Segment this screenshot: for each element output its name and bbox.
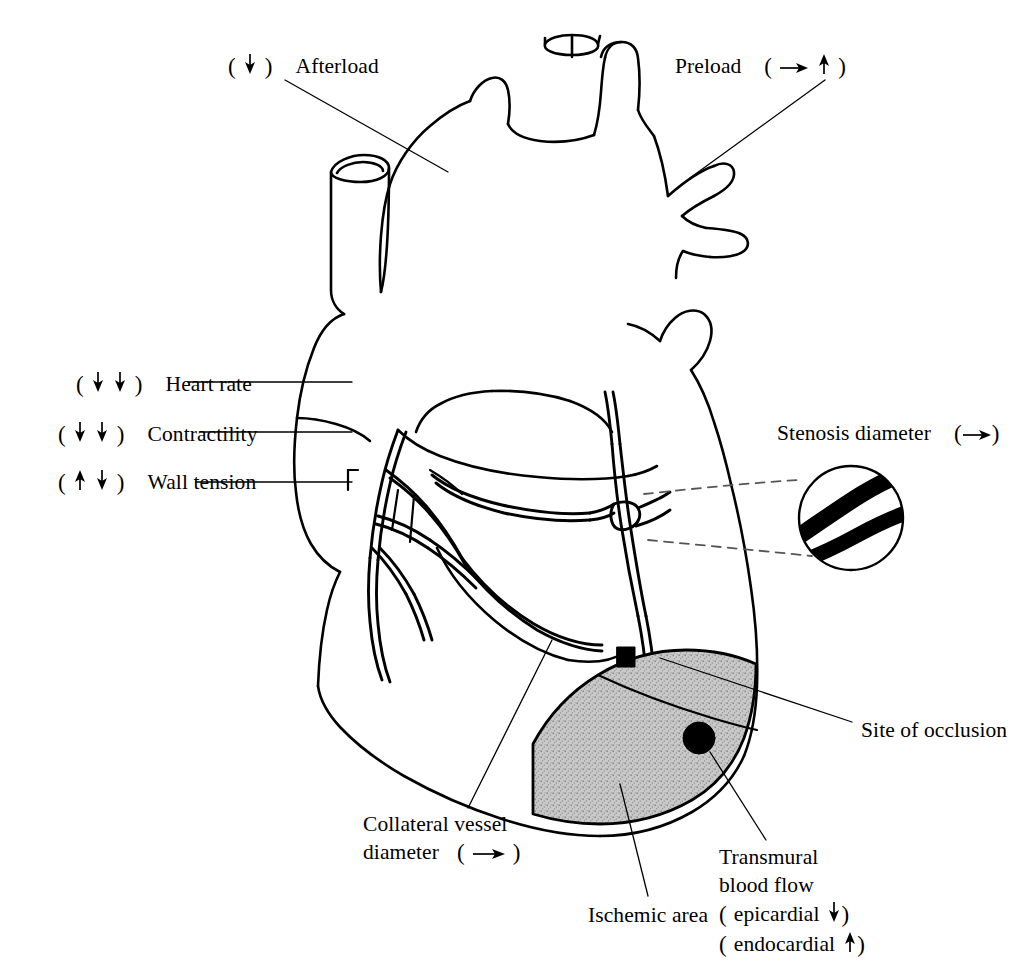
- up-arrow-icon: [73, 469, 88, 491]
- transmural-endocardial-text: endocardial: [734, 932, 835, 956]
- inset-leader-lines: [644, 480, 812, 556]
- label-preload: Preload (): [675, 52, 846, 82]
- transmural-endocardial-row: (endocardial): [719, 930, 949, 960]
- up-arrow-icon: [816, 53, 831, 75]
- label-heart-rate: () Heart rate: [76, 370, 252, 400]
- transmural-line2: blood flow: [719, 871, 949, 899]
- right-arrow-icon: [962, 426, 992, 442]
- afterload-text: Afterload: [296, 54, 379, 78]
- label-transmural-blood-flow: Transmural blood flow (epicardial) (endo…: [719, 843, 949, 960]
- transmural-epicardial-row: (epicardial): [719, 900, 949, 930]
- right-arrow-icon: [779, 59, 809, 75]
- contractility-text: Contractility: [148, 422, 258, 446]
- down-arrow-icon: [113, 371, 128, 393]
- heart-rate-arrows: (): [76, 370, 143, 400]
- wall-tension-arrows: (): [58, 468, 125, 498]
- figure-root: () Afterload Preload () () Heart rate ()…: [0, 0, 1035, 964]
- down-arrow-icon: [95, 421, 110, 443]
- label-ischemic-area: Ischemic area: [588, 901, 708, 929]
- pulmonary-artery: [654, 136, 748, 278]
- label-stenosis-diameter: Stenosis diameter (): [777, 419, 999, 449]
- afterload-arrows: (): [228, 52, 273, 82]
- label-site-of-occlusion: Site of occlusion: [861, 716, 1007, 744]
- collateral-vessel-line2: diameter: [363, 840, 439, 864]
- stenosis-inset: [790, 466, 916, 570]
- heart-rate-text: Heart rate: [166, 372, 252, 396]
- label-contractility: () Contractility: [58, 420, 257, 450]
- down-arrow-icon: [95, 469, 110, 491]
- right-arrow-icon: [472, 845, 506, 861]
- contractility-arrows: (): [58, 420, 125, 450]
- aorta: [380, 35, 654, 292]
- label-collateral-vessel: Collateral vessel diameter (): [363, 810, 573, 869]
- ischemic-area: [533, 650, 757, 824]
- label-afterload: () Afterload: [228, 52, 379, 82]
- down-arrow-icon: [73, 421, 88, 443]
- down-arrow-icon: [827, 901, 842, 923]
- collateral-vessel-arrows: (): [457, 838, 521, 868]
- ischemic-area-text: Ischemic area: [588, 903, 708, 927]
- leader-lines: [188, 80, 852, 896]
- occlusion-marker: [617, 647, 635, 667]
- stenosis-arrows: (): [954, 419, 1000, 449]
- wall-tension-text: Wall tension: [148, 470, 257, 494]
- stenosis-diameter-text: Stenosis diameter: [777, 421, 931, 445]
- collateral-vessel-line1: Collateral vessel: [363, 810, 573, 838]
- transmural-epicardial-text: epicardial: [734, 902, 820, 926]
- preload-text: Preload: [675, 54, 741, 78]
- site-of-occlusion-text: Site of occlusion: [861, 718, 1007, 742]
- up-arrow-icon: [842, 931, 857, 953]
- down-arrow-icon: [243, 53, 258, 75]
- preload-arrows: (): [764, 52, 846, 82]
- transmural-line1: Transmural: [719, 843, 949, 871]
- down-arrow-icon: [91, 371, 106, 393]
- transmural-marker: [683, 722, 715, 754]
- label-wall-tension: () Wall tension: [58, 468, 256, 498]
